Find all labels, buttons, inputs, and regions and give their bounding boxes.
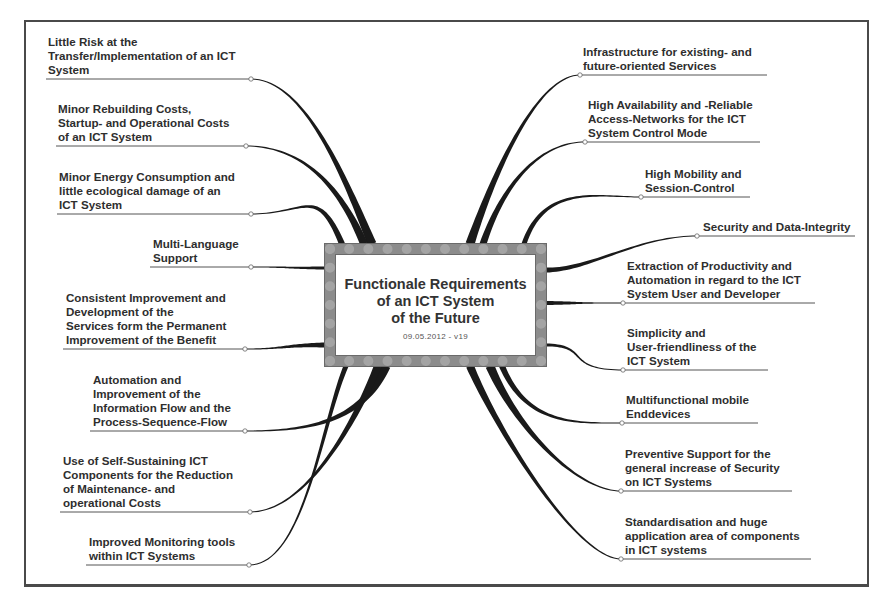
branch-connector [249, 365, 348, 566]
branch-connector [466, 75, 580, 246]
branch-connector [466, 365, 621, 560]
left-branch-label: Improved Monitoring tools within ICT Sys… [89, 535, 235, 563]
branch-node-circle-icon [243, 429, 247, 433]
right-branch-label: High Mobility and Session-Control [645, 167, 742, 195]
right-branch-label: Multifunctional mobile Enddevices [626, 393, 749, 421]
left-branch-label: Use of Self-Sustaining ICT Components fo… [63, 454, 233, 510]
branch-connector [250, 365, 382, 513]
branch-node-circle-icon [578, 73, 582, 77]
left-branch-label: Automation and Improvement of the Inform… [93, 373, 231, 429]
right-branch-label: Preventive Support for the general incre… [625, 447, 780, 489]
branch-node-circle-icon [583, 140, 587, 144]
branch-node-circle-icon [619, 489, 623, 493]
branch-node-circle-icon [639, 195, 643, 199]
branch-connector [251, 267, 325, 270]
branch-node-circle-icon [620, 421, 624, 425]
right-branch-label: Standardisation and huge application are… [625, 515, 800, 557]
branch-connector [245, 364, 390, 431]
branch-connector [251, 205, 345, 245]
left-branch-label: Minor Rebuilding Costs, Startup- and Ope… [58, 102, 229, 144]
branch-node-circle-icon [249, 212, 253, 216]
branch-connector [486, 364, 621, 491]
branch-connector [251, 79, 376, 246]
branch-node-circle-icon [247, 563, 251, 567]
branch-node-circle-icon [249, 265, 253, 269]
left-branch-label: Consistent Improvement and Development o… [66, 291, 226, 347]
right-branch-label: Simplicity and User-friendliness of the … [627, 326, 757, 368]
right-branch-label: Security and Data-Integrity [703, 220, 851, 234]
branch-node-circle-icon [695, 234, 699, 238]
left-branch-label: Multi-Language Support [153, 237, 239, 265]
mind-map-figure: Little Risk at the Transfer/Implementati… [0, 0, 888, 611]
branch-node-circle-icon [621, 301, 625, 305]
central-topic-box: Functionale Requirements of an ICT Syste… [325, 244, 546, 366]
branch-connector [245, 343, 325, 350]
central-topic-date-version: 09.05.2012 - v19 [335, 332, 536, 341]
right-branch-label: Extraction of Productivity and Automatio… [627, 259, 801, 301]
branch-node-circle-icon [244, 144, 248, 148]
branch-node-circle-icon [248, 510, 252, 514]
central-topic-title: Functionale Requirements of an ICT Syste… [335, 276, 536, 327]
branch-node-circle-icon [243, 347, 247, 351]
right-branch-label: Infrastructure for existing- and future-… [583, 45, 752, 73]
branch-connector [522, 195, 641, 245]
branch-connector [546, 301, 623, 305]
branch-node-circle-icon [621, 368, 625, 372]
branch-connector [546, 344, 623, 371]
left-branch-label: Little Risk at the Transfer/Implementati… [48, 35, 235, 77]
branch-node-circle-icon [249, 77, 253, 81]
branch-node-circle-icon [619, 557, 623, 561]
right-branch-label: High Availability and -Reliable Access-N… [588, 98, 753, 140]
left-branch-label: Minor Energy Consumption and little ecol… [59, 170, 235, 212]
